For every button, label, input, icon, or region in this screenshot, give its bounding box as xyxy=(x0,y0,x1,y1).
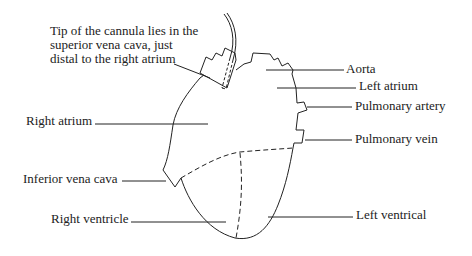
label-right-ventricle: Right ventricle xyxy=(51,212,129,226)
interventricular-septum xyxy=(236,153,241,238)
label-pulmonary-vein: Pulmonary vein xyxy=(355,132,438,146)
label-aorta: Aorta xyxy=(346,62,376,76)
superior-vena-cava xyxy=(200,48,236,88)
av-groove xyxy=(181,148,293,178)
label-inferior-vena-cava: Inferior vena cava xyxy=(23,172,118,186)
cannula-tip-callout: Tip of the cannula lies in the superior … xyxy=(50,24,198,66)
label-left-ventrical: Left ventrical xyxy=(356,208,426,222)
label-left-atrium: Left atrium xyxy=(359,79,418,93)
leader-callout xyxy=(174,64,210,78)
callout-line-1: Tip of the cannula lies in the xyxy=(50,24,198,38)
right-atrium-outline xyxy=(163,75,204,187)
callout-line-2: superior vena cava, just xyxy=(50,38,198,52)
ventricle-outline xyxy=(181,148,293,239)
callout-line-3: distal to the right atrium xyxy=(50,52,198,66)
left-side-outline xyxy=(236,53,307,148)
label-pulmonary-artery: Pulmonary artery xyxy=(355,99,446,113)
label-right-atrium: Right atrium xyxy=(26,114,92,128)
